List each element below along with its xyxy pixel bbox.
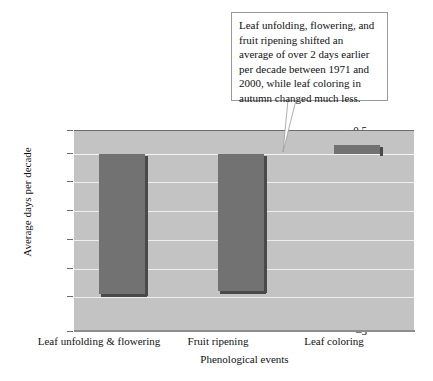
- bars-group: [74, 131, 414, 331]
- bar-shadow: [101, 294, 147, 297]
- y-tick-mark: [67, 331, 73, 332]
- y-tick-mark: [67, 153, 73, 154]
- x-axis-title: Phenological events: [74, 353, 415, 365]
- y-tick-mark: [67, 210, 73, 211]
- y-tick-mark: [67, 130, 73, 131]
- x-tick-label-leaf-coloring: Leaf coloring: [254, 335, 414, 347]
- x-axis-line: [74, 330, 415, 332]
- bar-leaf-unfolding-flowering[interactable]: [99, 154, 145, 295]
- bar-fruit-ripening[interactable]: [218, 154, 264, 292]
- y-tick-mark: [67, 239, 73, 240]
- y-tick-mark: [67, 268, 73, 269]
- annotation-text: Leaf unfolding, flowering, and fruit rip…: [239, 19, 374, 104]
- y-tick-mark: [67, 181, 73, 182]
- y-axis-title: Average days per decade: [21, 112, 33, 292]
- y-tick-mark: [67, 296, 73, 297]
- bar-shadow: [264, 156, 267, 294]
- annotation-callout: Leaf unfolding, flowering, and fruit rip…: [231, 12, 388, 101]
- bar-shadow: [380, 147, 383, 156]
- bar-shadow: [145, 156, 148, 297]
- plot-area: [74, 130, 414, 331]
- bar-shadow: [220, 291, 266, 294]
- bar-leaf-coloring[interactable]: [334, 145, 380, 154]
